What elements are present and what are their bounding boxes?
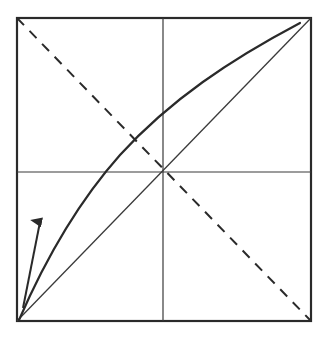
tangent-arrow — [23, 222, 40, 308]
diagram-canvas — [0, 0, 325, 346]
